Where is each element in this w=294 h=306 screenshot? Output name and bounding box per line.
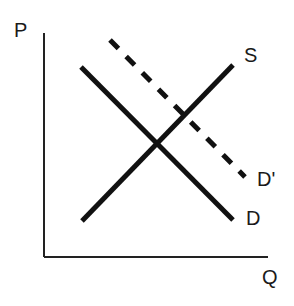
demand-label: D [246, 207, 260, 229]
shifted-demand-label: D' [257, 168, 275, 190]
supply-label: S [244, 44, 257, 66]
x-axis-label: Q [262, 266, 278, 288]
y-axis-label: P [14, 19, 27, 41]
supply-demand-diagram: P Q S D' D [0, 0, 294, 306]
shifted-demand-curve [110, 40, 245, 177]
